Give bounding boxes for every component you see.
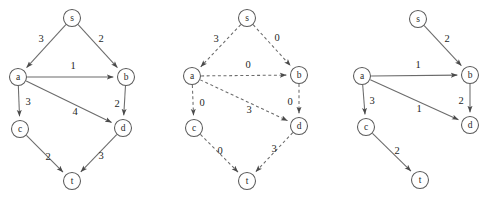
flow-network-canvas: 32134223sabcdt30003003sabcdt213122sabcdt <box>0 0 491 203</box>
edge-a-to-b <box>201 75 286 76</box>
edge-weight-label: 2 <box>114 98 119 109</box>
node-label-s: s <box>416 14 420 24</box>
node-label-c: c <box>192 123 196 133</box>
node-label-t: t <box>419 175 422 185</box>
edge-a-to-d <box>26 81 111 122</box>
edge-weight-label: 3 <box>271 143 276 154</box>
node-label-d: d <box>468 120 473 130</box>
node-label-t: t <box>246 176 249 186</box>
edge-weight-label: 3 <box>213 33 218 44</box>
edge-weight-label: 2 <box>458 95 463 106</box>
edge-weight-label: 0 <box>217 145 222 156</box>
flow-assignment-graph: 213122sabcdt <box>354 11 479 189</box>
flow-network-figure: 32134223sabcdt30003003sabcdt213122sabcdt <box>0 0 491 203</box>
edge-s-to-a <box>201 25 241 67</box>
node-label-b: b <box>297 70 302 80</box>
edge-weight-label: 1 <box>416 103 421 114</box>
node-label-d: d <box>121 123 126 133</box>
edge-s-to-b <box>424 26 461 66</box>
edge-b-to-d <box>124 86 126 115</box>
edge-weight-label: 2 <box>98 33 103 44</box>
node-label-s: s <box>245 13 249 23</box>
edge-weight-label: 2 <box>394 145 399 156</box>
node-label-b: b <box>124 72 129 82</box>
edge-s-to-a <box>27 25 66 68</box>
panels-root: 32134223sabcdt30003003sabcdt213122sabcdt <box>10 10 479 190</box>
edge-weight-label: 3 <box>98 150 103 161</box>
original-capacity-graph: 32134223sabcdt <box>10 10 135 190</box>
node-label-d: d <box>297 121 302 131</box>
edge-a-to-d <box>370 80 458 120</box>
edge-weight-label: 4 <box>72 106 78 117</box>
node-label-c: c <box>18 124 22 134</box>
node-label-t: t <box>71 176 74 186</box>
edge-a-to-c <box>18 86 19 116</box>
edge-weight-label: 2 <box>444 33 449 44</box>
edge-weight-label: 0 <box>274 32 279 43</box>
edge-weight-label: 0 <box>245 59 250 70</box>
edge-weight-label: 2 <box>45 151 50 162</box>
edge-s-to-b <box>78 25 117 68</box>
edge-weight-label: 3 <box>38 33 43 44</box>
edge-weight-label: 3 <box>246 104 251 115</box>
residual-capacity-graph: 30003003sabcdt <box>184 10 308 190</box>
edge-a-to-c <box>363 85 365 114</box>
edge-s-to-b <box>253 25 290 66</box>
edge-a-to-d <box>200 80 287 121</box>
edge-weight-label: 1 <box>70 60 75 71</box>
node-label-s: s <box>70 13 74 23</box>
edge-weight-label: 0 <box>199 97 204 108</box>
node-label-b: b <box>468 70 473 80</box>
edge-weight-label: 1 <box>415 59 420 70</box>
edge-weight-label: 3 <box>25 96 30 107</box>
edge-c-to-t <box>372 133 410 171</box>
edge-a-to-c <box>192 85 193 115</box>
node-label-c: c <box>364 122 368 132</box>
edge-weight-label: 0 <box>287 96 292 107</box>
edge-weight-label: 3 <box>369 95 374 106</box>
edge-a-to-b <box>371 75 457 76</box>
